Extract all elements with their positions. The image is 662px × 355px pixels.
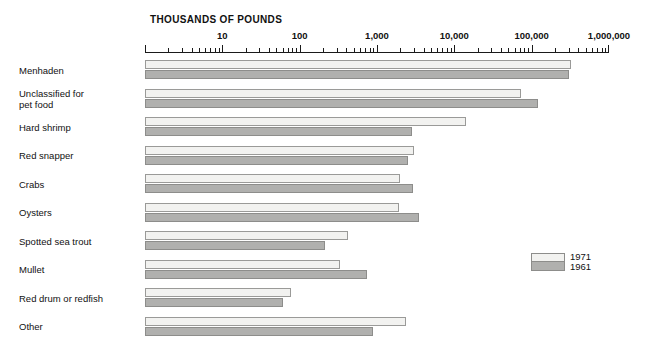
chart-row: Red drum or redfish bbox=[145, 288, 609, 309]
x-axis-tick bbox=[454, 45, 455, 52]
bar-1971 bbox=[145, 60, 571, 69]
bar-1961 bbox=[145, 327, 373, 336]
bar-1961 bbox=[145, 241, 325, 250]
bar-1961 bbox=[145, 156, 408, 165]
x-axis-tick-label: 1,000 bbox=[365, 30, 389, 41]
bar-1961 bbox=[145, 270, 367, 279]
x-axis-tick bbox=[145, 45, 146, 52]
bar-1961 bbox=[145, 70, 569, 79]
commercial-fishery-landings-chart: THOUSANDS OF POUNDS 101001,00010,000100,… bbox=[0, 0, 662, 355]
bar-1971 bbox=[145, 203, 399, 212]
bar-1961 bbox=[145, 213, 419, 222]
bar-1971 bbox=[145, 89, 521, 98]
legend-swatches bbox=[531, 253, 565, 271]
category-label: Oysters bbox=[19, 208, 139, 219]
x-axis-tick bbox=[377, 45, 378, 52]
x-axis-tick-label: 10,000 bbox=[440, 30, 469, 41]
plot-area: MenhadenUnclassified for pet foodHard sh… bbox=[145, 60, 609, 345]
category-label: Hard shrimp bbox=[19, 122, 139, 133]
legend: 1971 1961 bbox=[531, 252, 591, 272]
x-axis-tick-label: 100 bbox=[292, 30, 308, 41]
bar-1961 bbox=[145, 184, 413, 193]
chart-row: Hard shrimp bbox=[145, 117, 609, 138]
category-label: Crabs bbox=[19, 179, 139, 190]
bar-1971 bbox=[145, 117, 466, 126]
chart-row: Crabs bbox=[145, 174, 609, 195]
bar-1971 bbox=[145, 231, 348, 240]
category-label: Menhaden bbox=[19, 65, 139, 76]
legend-swatch-1971 bbox=[531, 253, 565, 262]
category-label: Red snapper bbox=[19, 151, 139, 162]
chart-row: Spotted sea trout bbox=[145, 231, 609, 252]
bar-1961 bbox=[145, 298, 283, 307]
legend-labels: 1971 1961 bbox=[570, 252, 591, 272]
bar-1971 bbox=[145, 317, 406, 326]
bar-1971 bbox=[145, 288, 291, 297]
bar-1971 bbox=[145, 146, 414, 155]
x-axis-tick-label: 100,000 bbox=[514, 30, 548, 41]
chart-row: Red snapper bbox=[145, 146, 609, 167]
bar-1971 bbox=[145, 260, 340, 269]
category-label: Mullet bbox=[19, 265, 139, 276]
x-axis-tick bbox=[608, 45, 609, 52]
x-axis-tick bbox=[300, 45, 301, 52]
bar-1961 bbox=[145, 127, 412, 136]
chart-row: Unclassified for pet food bbox=[145, 89, 609, 110]
legend-label-1961: 1961 bbox=[570, 262, 591, 272]
category-label: Red drum or redfish bbox=[19, 293, 139, 304]
legend-swatch-1961 bbox=[531, 262, 565, 271]
x-axis-tick-label: 1,000,000 bbox=[588, 30, 630, 41]
x-axis: 101001,00010,000100,0001,000,000 bbox=[145, 30, 609, 56]
chart-row: Menhaden bbox=[145, 60, 609, 81]
category-label: Unclassified for pet food bbox=[19, 89, 139, 110]
x-axis-title: THOUSANDS OF POUNDS bbox=[150, 14, 282, 25]
x-axis-line bbox=[145, 52, 609, 53]
x-axis-tick bbox=[532, 45, 533, 52]
x-axis-tick-label: 10 bbox=[217, 30, 228, 41]
category-label: Spotted sea trout bbox=[19, 236, 139, 247]
chart-row: Other bbox=[145, 317, 609, 338]
category-label: Other bbox=[19, 322, 139, 333]
bar-1971 bbox=[145, 174, 400, 183]
bar-1961 bbox=[145, 99, 538, 108]
chart-row: Oysters bbox=[145, 203, 609, 224]
x-axis-tick bbox=[222, 45, 223, 52]
